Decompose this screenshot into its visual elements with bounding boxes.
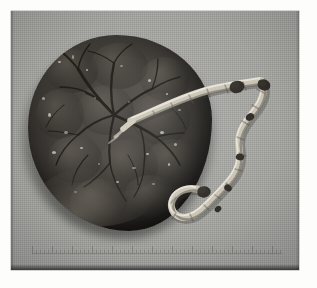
- placenta-disc: [28, 35, 212, 231]
- ruler-tick: [180, 250, 181, 254]
- ruler-tick: [120, 250, 121, 254]
- ruler-tick: [232, 246, 233, 254]
- amnion-highlight: [52, 151, 56, 154]
- ruler-tick: [148, 250, 149, 254]
- amnion-highlight: [168, 163, 170, 166]
- ruler-tick: [240, 250, 241, 254]
- amnion-highlight: [132, 167, 136, 169]
- ruler-tick: [204, 250, 205, 254]
- ruler-tick: [100, 250, 101, 254]
- amnion-highlight: [120, 65, 123, 67]
- ruler-tick: [280, 250, 281, 254]
- ruler-strip: [32, 243, 282, 254]
- ruler-tick: [68, 250, 69, 254]
- ruler-tick: [228, 250, 229, 254]
- ruler-tick: [208, 250, 209, 254]
- amnion-highlight: [86, 69, 88, 71]
- ruler-tick: [116, 250, 117, 254]
- ruler-tick: [104, 250, 105, 254]
- amnion-highlight: [160, 131, 164, 134]
- ruler-tick: [184, 250, 185, 254]
- ruler-tick: [132, 246, 133, 254]
- ruler-tick: [56, 250, 57, 254]
- ruler-tick: [248, 250, 249, 254]
- ruler-tick: [196, 250, 197, 254]
- plate-edge-left: [11, 11, 14, 270]
- amnion-highlight: [152, 183, 155, 185]
- ruler-tick: [172, 246, 173, 254]
- ruler-tick: [244, 250, 245, 254]
- ruler-tick: [64, 250, 65, 254]
- plate-edge-bottom: [11, 265, 299, 270]
- amnion-highlight: [72, 55, 74, 59]
- amnion-highlight: [98, 163, 100, 165]
- ruler-tick: [276, 250, 277, 254]
- plate-edge-right: [296, 11, 299, 270]
- ruler-tick: [44, 250, 45, 254]
- ruler-tick: [272, 246, 273, 254]
- amnion-highlight: [174, 143, 177, 146]
- ruler-tick: [192, 246, 193, 254]
- amnion-highlight: [80, 147, 83, 149]
- ruler-tick: [220, 250, 221, 254]
- ruler-tick: [156, 250, 157, 254]
- ruler-tick: [32, 246, 33, 254]
- amnion-highlight: [42, 97, 45, 100]
- page-background: [0, 0, 317, 288]
- ruler-tick: [60, 250, 61, 254]
- ruler-tick: [160, 250, 161, 254]
- amnion-highlight: [128, 101, 130, 103]
- ruler-tick: [48, 250, 49, 254]
- ruler-tick: [164, 250, 165, 254]
- ruler-tick: [252, 246, 253, 254]
- ruler-tick: [40, 250, 41, 254]
- ruler-tick: [168, 250, 169, 254]
- ruler-tick: [76, 250, 77, 254]
- ruler-tick: [140, 250, 141, 254]
- ruler-tick: [256, 250, 257, 254]
- ruler-tick: [72, 246, 73, 254]
- amnion-highlight: [178, 109, 181, 111]
- ruler-tick: [112, 246, 113, 254]
- ruler-tick: [152, 246, 153, 254]
- ruler-tick: [224, 250, 225, 254]
- ruler-tick: [236, 250, 237, 254]
- ruler-tick: [212, 246, 213, 254]
- ruler-tick: [52, 246, 53, 254]
- ruler-tick: [36, 250, 37, 254]
- ruler-tick: [144, 250, 145, 254]
- amnion-highlight: [64, 131, 68, 134]
- amnion-highlight: [166, 93, 168, 95]
- ruler-tick: [96, 250, 97, 254]
- ruler-tick: [108, 250, 109, 254]
- ruler-tick: [124, 250, 125, 254]
- amnion-highlight: [146, 153, 149, 155]
- ruler-tick: [188, 250, 189, 254]
- amnion-highlight: [58, 61, 61, 63]
- ruler-tick: [176, 250, 177, 254]
- placenta-body: [28, 35, 212, 231]
- ruler-tick: [128, 250, 129, 254]
- ruler-tick: [264, 250, 265, 254]
- ruler-tick: [260, 250, 261, 254]
- ruler-tick: [80, 250, 81, 254]
- amnion-highlight: [94, 97, 96, 99]
- ruler-tick: [92, 246, 93, 254]
- amnion-highlight: [48, 113, 51, 117]
- photographic-plate: [11, 11, 299, 270]
- ruler-tick: [88, 250, 89, 254]
- ruler-tick: [216, 250, 217, 254]
- amnion-highlight: [148, 79, 151, 82]
- ruler-tick: [84, 250, 85, 254]
- ruler-tick: [200, 250, 201, 254]
- ruler-tick: [136, 250, 137, 254]
- ruler-tick: [268, 250, 269, 254]
